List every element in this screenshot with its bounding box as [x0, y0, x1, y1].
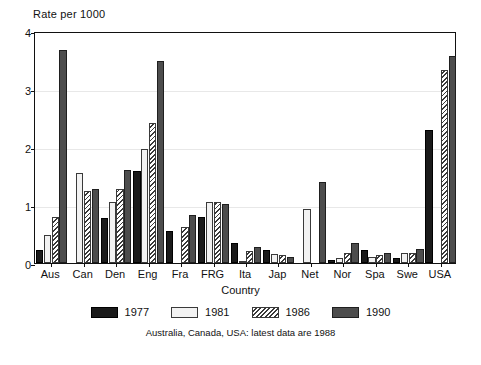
legend-entry-1981[interactable]: 1981 [171, 306, 229, 318]
bar-jap-1981 [271, 254, 278, 263]
plot-area: 01234 [34, 32, 456, 264]
x-tick-label-aus: Aus [41, 268, 60, 280]
bar-den-1990 [124, 170, 131, 263]
legend-swatch-1981 [171, 307, 198, 318]
bar-can-1986 [84, 191, 91, 263]
legend-label-1981: 1981 [205, 306, 229, 318]
y-tick-label: 0 [25, 259, 31, 271]
x-tick-mark [246, 263, 247, 267]
x-tick-label-eng: Eng [138, 268, 158, 280]
x-tick-label-jap: Jap [269, 268, 287, 280]
bar-eng-1990 [157, 61, 164, 263]
x-tick-label-swe: Swe [397, 268, 418, 280]
x-tick-mark [343, 263, 344, 267]
legend-label-1990: 1990 [366, 306, 390, 318]
bar-frg-1990 [222, 204, 229, 263]
x-tick-mark [51, 263, 52, 267]
bar-ita-1977 [231, 243, 238, 263]
y-tick-mark [31, 33, 35, 34]
x-tick-mark [311, 263, 312, 267]
y-tick-mark [31, 265, 35, 266]
y-tick-mark [31, 207, 35, 208]
bar-chart-figure: Rate per 1000 01234 AusCanDenEngFraFRGIt… [0, 0, 481, 365]
bar-ita-1990 [254, 247, 261, 263]
bar-fra-1977 [166, 231, 173, 263]
gridline [35, 149, 455, 150]
y-tick-label: 2 [25, 143, 31, 155]
x-tick-mark [408, 263, 409, 267]
gridline [35, 91, 455, 92]
legend: 1977198119861990 [0, 306, 481, 318]
x-tick-mark [376, 263, 377, 267]
bar-eng-1986 [149, 123, 156, 263]
bar-ita-1981 [239, 261, 246, 263]
x-tick-mark [149, 263, 150, 267]
legend-label-1977: 1977 [125, 306, 149, 318]
bar-aus-1981 [44, 235, 51, 263]
bar-can-1990 [92, 189, 99, 263]
x-tick-mark [181, 263, 182, 267]
bar-spa-1981 [368, 257, 375, 263]
bar-swe-1990 [416, 249, 423, 264]
legend-entry-1986[interactable]: 1986 [252, 306, 310, 318]
x-tick-mark [214, 263, 215, 267]
y-tick-label: 4 [25, 27, 31, 39]
bar-jap-1986 [279, 255, 286, 263]
bar-usa-1977 [425, 130, 432, 263]
legend-swatch-1986 [252, 307, 279, 318]
bar-frg-1977 [198, 217, 205, 263]
x-tick-label-spa: Spa [365, 268, 385, 280]
x-tick-label-den: Den [105, 268, 125, 280]
bar-den-1986 [116, 189, 123, 263]
bar-eng-1977 [133, 171, 140, 263]
bar-can-1981 [76, 173, 83, 263]
legend-label-1986: 1986 [286, 306, 310, 318]
bar-jap-1977 [263, 250, 270, 263]
bar-eng-1981 [141, 149, 148, 263]
y-tick-label: 1 [25, 201, 31, 213]
plot-inner: 01234 [35, 33, 455, 263]
bar-swe-1986 [409, 253, 416, 263]
x-tick-mark [441, 263, 442, 267]
legend-swatch-1977 [91, 307, 118, 318]
bar-net-1990 [319, 182, 326, 263]
bar-usa-1986 [441, 70, 448, 263]
x-tick-mark [116, 263, 117, 267]
x-tick-label-fra: Fra [172, 268, 189, 280]
bar-swe-1981 [401, 253, 408, 263]
bar-den-1977 [101, 218, 108, 263]
x-tick-label-nor: Nor [334, 268, 352, 280]
y-axis-title: Rate per 1000 [33, 8, 105, 20]
bar-swe-1977 [393, 258, 400, 263]
bar-aus-1990 [59, 50, 66, 263]
x-tick-label-can: Can [73, 268, 93, 280]
bar-aus-1986 [52, 217, 59, 263]
bar-fra-1990 [189, 215, 196, 263]
x-tick-mark [84, 263, 85, 267]
legend-swatch-1990 [332, 307, 359, 318]
y-tick-mark [31, 91, 35, 92]
x-tick-label-net: Net [301, 268, 318, 280]
x-tick-label-ita: Ita [239, 268, 251, 280]
bar-nor-1981 [336, 258, 343, 263]
bar-nor-1986 [344, 253, 351, 263]
bar-frg-1986 [214, 202, 221, 263]
legend-entry-1977[interactable]: 1977 [91, 306, 149, 318]
legend-entry-1990[interactable]: 1990 [332, 306, 390, 318]
bar-net-1981 [303, 209, 310, 263]
bar-fra-1986 [181, 227, 188, 263]
bar-spa-1986 [376, 255, 383, 263]
bar-nor-1990 [351, 243, 358, 263]
bar-nor-1977 [328, 260, 335, 263]
bar-den-1981 [109, 202, 116, 263]
bar-jap-1990 [287, 257, 294, 263]
x-tick-mark [278, 263, 279, 267]
y-tick-mark [31, 149, 35, 150]
x-tick-label-usa: USA [428, 268, 451, 280]
x-tick-label-frg: FRG [201, 268, 224, 280]
bar-spa-1977 [361, 250, 368, 263]
chart-footnote: Australia, Canada, USA: latest data are … [0, 327, 481, 338]
y-tick-label: 3 [25, 85, 31, 97]
x-axis-title: Country [0, 284, 481, 296]
bar-usa-1990 [449, 56, 456, 263]
